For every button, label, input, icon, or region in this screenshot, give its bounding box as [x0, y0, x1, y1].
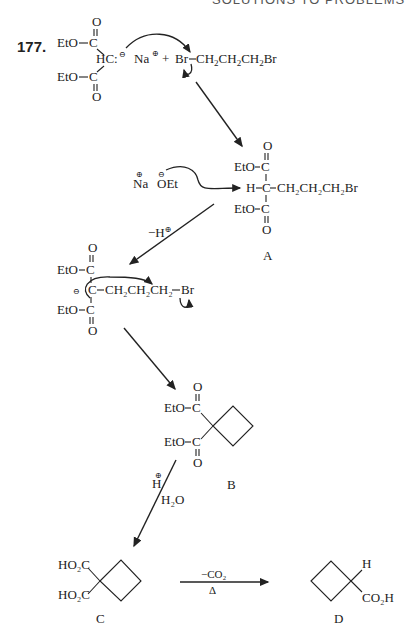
carbonyl-oxygen-top: O [263, 138, 272, 153]
carboxylic-acid-group: CO₂H [362, 590, 394, 605]
bromopropyl-chain: CH₂CH₂CH₂Br [277, 180, 358, 195]
cyclobutane-ring [311, 561, 351, 601]
reaction-arrow-deprotonation [130, 204, 214, 264]
hydrogen: H [362, 556, 371, 571]
dibromopropane: Br CH2CH2CH2Br [175, 51, 277, 68]
plus-sign: + [162, 51, 169, 66]
cyclobutane-ring [100, 560, 141, 601]
compound-label-B: B [227, 477, 236, 492]
terminal-bromine: Br [181, 282, 195, 297]
compound-label-A: A [263, 248, 273, 263]
loss-of-co2-label: −CO₂ [201, 568, 226, 580]
carbonyl-oxygen-top: O [193, 379, 202, 394]
bond [351, 581, 362, 592]
carbanion-carbon: C [88, 282, 97, 297]
carbonyl-carbon-top: C [89, 35, 98, 50]
bond [201, 413, 213, 426]
carbonyl-carbon: C [86, 302, 95, 317]
sodium-counterion: Na [134, 51, 149, 66]
malonate-anion: O EtO C HC: ⊖ EtO C O [57, 14, 126, 104]
carbonyl-carbon: C [261, 201, 270, 216]
carbonyl-oxygen-top: O [92, 14, 101, 29]
negative-charge: ⊖ [73, 287, 80, 296]
carbonyl-oxygen-bottom: O [92, 89, 101, 104]
bromide-leaving-arrow [180, 298, 189, 307]
carbonyl-oxygen-bottom: O [88, 323, 97, 338]
compound-label-D: D [334, 611, 343, 626]
carbonyl-oxygen-bottom: O [262, 222, 271, 237]
ester-group-top: EtO [57, 35, 78, 50]
negative-charge: ⊖ [158, 170, 165, 179]
compound-B: O EtO C EtO C O [164, 379, 253, 470]
alpha-hydrogen: H [246, 180, 255, 195]
ester-group-bottom: EtO [57, 69, 78, 84]
negative-charge: ⊖ [119, 50, 126, 59]
propyl-chain: CH₂CH₂CH₂ [105, 282, 173, 297]
carbonyl-carbon: C [192, 400, 201, 415]
reaction-arrow-to-A [196, 82, 242, 146]
bond [201, 426, 213, 439]
carbanion-center: HC: [96, 51, 118, 66]
carbonyl-oxygen-bottom: O [193, 455, 202, 470]
ester-group-top: EtO [234, 159, 255, 174]
reaction-arrow-to-B [124, 328, 175, 389]
carbonyl-carbon: C [86, 262, 95, 277]
compound-C: HO₂C HO₂C [58, 557, 141, 602]
positive-charge: ⊕ [155, 471, 162, 480]
carbanion-intermediate: O EtO C ⊖ C CH₂CH₂CH₂ Br EtO C O [57, 240, 195, 338]
ester-group-top: EtO [164, 400, 185, 415]
carbonyl-carbon: C [192, 434, 201, 449]
carbonyl-carbon: C [261, 159, 270, 174]
page: SOLUTIONS TO PROBLEMS 177. O EtO C HC: ⊖… [0, 0, 412, 640]
bond [88, 568, 100, 581]
reaction-mechanism-diagram: SOLUTIONS TO PROBLEMS 177. O EtO C HC: ⊖… [0, 0, 412, 640]
compound-label-C: C [96, 611, 105, 626]
water-reagent: H₂O [161, 492, 184, 507]
ester-group-bottom: EtO [57, 302, 78, 317]
leaving-bromine: Br [175, 51, 189, 66]
bond [351, 570, 362, 581]
carboxylic-acid-bottom: HO₂C [58, 587, 90, 602]
problem-number: 177. [17, 38, 46, 55]
ester-group-bottom: EtO [164, 434, 185, 449]
carbonyl-oxygen-top: O [88, 240, 97, 255]
ester-group-top: EtO [57, 262, 78, 277]
ester-group-bottom: EtO [234, 201, 255, 216]
alpha-carbon: C [262, 180, 271, 195]
running-header: SOLUTIONS TO PROBLEMS [212, 0, 405, 7]
positive-charge: ⊕ [152, 49, 159, 58]
cyclobutane-ring [213, 406, 253, 446]
compound-A: O EtO C H C CH₂CH₂CH₂Br EtO C O [234, 138, 358, 237]
bond [97, 66, 104, 72]
propyl-chain: CH2CH2CH2Br [196, 51, 277, 68]
compound-D: H CO₂H [311, 556, 394, 605]
positive-charge: ⊕ [136, 170, 143, 179]
carbonyl-carbon-bottom: C [89, 69, 98, 84]
heat-label: Δ [209, 584, 216, 596]
carboxylic-acid-top: HO₂C [58, 557, 90, 572]
